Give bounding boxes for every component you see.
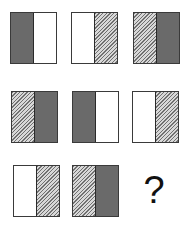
cell-r2-c1 (11, 91, 58, 143)
right-half-dark (96, 166, 119, 216)
left-half-white (133, 92, 156, 142)
left-half-hatch (73, 166, 96, 216)
right-half-dark (157, 13, 180, 63)
cell-r1-c2 (71, 12, 118, 64)
cell-r3-c1 (13, 165, 60, 217)
cell-r2-c3 (132, 91, 179, 143)
right-half-white (34, 13, 57, 63)
left-half-dark (73, 92, 96, 142)
right-half-hatch (156, 92, 179, 142)
left-half-white (14, 166, 37, 216)
left-half-white (72, 13, 95, 63)
cell-r1-c3 (133, 12, 180, 64)
left-half-dark (11, 13, 34, 63)
missing-cell-question-mark: ? (141, 168, 167, 212)
right-half-dark (35, 92, 58, 142)
right-half-hatch (95, 13, 118, 63)
left-half-hatch (134, 13, 157, 63)
cell-r1-c1 (10, 12, 57, 64)
right-half-hatch (37, 166, 60, 216)
right-half-white (96, 92, 119, 142)
cell-r2-c2 (72, 91, 119, 143)
left-half-hatch (12, 92, 35, 142)
cell-r3-c2 (72, 165, 119, 217)
